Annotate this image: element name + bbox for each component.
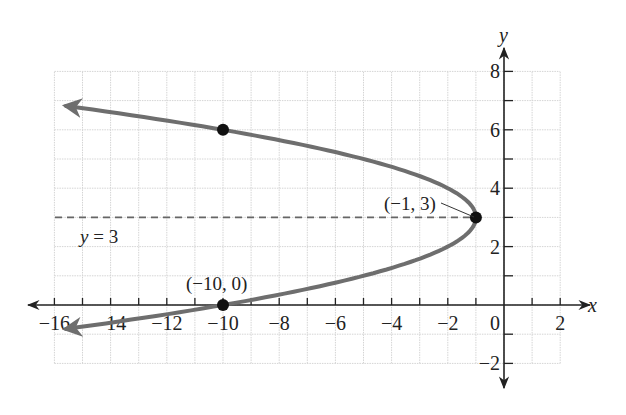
axis-of-symmetry-eq: = 3 [88,226,118,247]
data-point [217,124,229,136]
x-tick-label: 2 [555,312,565,334]
y-tick-label: 4 [490,177,500,199]
x-tick-label: −2 [437,312,458,334]
y-tick-label: −2 [479,352,500,374]
axis-of-symmetry-label: y = 3 [78,226,118,247]
y-tick-label: 2 [490,236,500,258]
parabola-chart: −16−14−12−10−8−6−4−202−22468 x y (−1, 3)… [0,0,626,415]
intercept-label: (−10, 0) [186,273,247,295]
data-point [470,211,482,223]
x-tick-label: 0 [490,312,500,334]
x-tick-label: −6 [325,312,346,334]
x-tick-label: −8 [269,312,290,334]
y-tick-label: 6 [490,119,500,141]
data-point [217,299,229,311]
y-tick-label: 8 [490,60,500,82]
x-tick-label: −10 [207,312,238,334]
y-axis-label: y [497,24,508,47]
axis-of-symmetry-var: y [78,226,89,247]
x-tick-label: −4 [381,312,402,334]
x-axis-label: x [587,294,597,316]
vertex-label: (−1, 3) [384,193,436,215]
